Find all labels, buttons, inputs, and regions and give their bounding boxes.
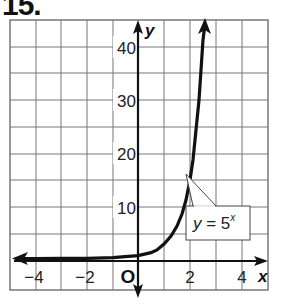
- equation-label: y = 5x: [192, 212, 236, 233]
- x-tick-2: 2: [185, 268, 194, 287]
- x-axis-label: x: [257, 267, 269, 286]
- y-tick-20: 20: [117, 145, 136, 164]
- y-axis-label: y: [144, 21, 156, 40]
- y-tick-40: 40: [117, 39, 136, 58]
- x-tick-neg2: −2: [75, 268, 94, 287]
- x-tick-neg4: −4: [24, 268, 43, 287]
- y-tick-10: 10: [117, 199, 136, 218]
- x-tick-4: 4: [237, 268, 246, 287]
- origin-label: O: [121, 266, 136, 287]
- y-tick-30: 30: [117, 92, 136, 111]
- exponential-graph: 40 30 20 10 −4 −2 2 4 O x y y = 5x: [0, 0, 282, 305]
